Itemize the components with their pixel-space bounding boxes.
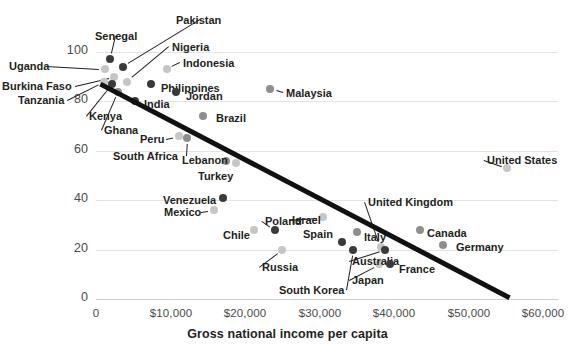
data-point[interactable] [183, 134, 191, 142]
point-label: Jordan [186, 90, 223, 102]
point-label: South Africa [113, 150, 178, 162]
data-point[interactable] [123, 78, 131, 86]
data-point[interactable] [219, 194, 227, 202]
point-label: South Korea [279, 284, 344, 296]
data-point[interactable] [175, 132, 183, 140]
gridline-y-0 [96, 299, 558, 300]
label-leader-line [201, 211, 208, 213]
label-leader-line [276, 90, 283, 93]
x-axis-label: Gross national income per capita [0, 327, 575, 341]
data-point[interactable] [172, 88, 180, 96]
data-point[interactable] [163, 65, 171, 73]
point-label: Canada [427, 227, 467, 239]
point-label: India [144, 98, 170, 110]
data-point[interactable] [381, 246, 389, 254]
point-label: Chile [223, 229, 250, 241]
data-point[interactable] [386, 260, 394, 268]
data-point[interactable] [338, 238, 346, 246]
point-label: Spain [303, 228, 333, 240]
point-label: Senegal [95, 30, 137, 42]
data-point[interactable] [131, 97, 139, 105]
label-leader-line [172, 62, 180, 67]
point-label: Malaysia [286, 87, 332, 99]
data-point[interactable] [271, 226, 279, 234]
y-tick-label: 20 [48, 241, 88, 255]
point-label: Indonesia [183, 57, 234, 69]
data-point[interactable] [250, 226, 258, 234]
point-label: Lebanon [182, 154, 228, 166]
data-point[interactable] [199, 112, 207, 120]
data-point[interactable] [147, 80, 155, 88]
data-point[interactable] [101, 65, 109, 73]
gridline-y-100 [96, 52, 558, 53]
label-leader-line [166, 137, 173, 140]
point-label: Brazil [216, 112, 246, 124]
data-point[interactable] [114, 88, 122, 96]
data-point[interactable] [108, 80, 116, 88]
x-tick-label: $60,000 [498, 307, 575, 319]
data-point[interactable] [106, 55, 114, 63]
point-label: Peru [140, 133, 164, 145]
data-point[interactable] [266, 85, 274, 93]
data-point[interactable] [232, 159, 240, 167]
point-label: France [399, 263, 435, 275]
point-label: Turkey [198, 170, 233, 182]
data-point[interactable] [278, 246, 286, 254]
plot-area: 0204060801000$10,000$20,000$30,000$40,00… [0, 0, 575, 349]
point-label: Venezuela [163, 194, 216, 206]
point-label: Tanzania [18, 94, 64, 106]
point-label: Burkina Faso [2, 80, 72, 92]
y-tick-label: 100 [48, 43, 88, 57]
point-label: United Kingdom [368, 196, 453, 208]
y-tick-label: 40 [48, 191, 88, 205]
data-point[interactable] [439, 241, 447, 249]
data-point[interactable] [349, 246, 357, 254]
point-label: Russia [262, 261, 298, 273]
data-point[interactable] [210, 206, 218, 214]
y-tick-label: 0 [48, 290, 88, 304]
label-leader-line [46, 66, 99, 70]
data-point[interactable] [100, 78, 108, 86]
y-tick-label: 60 [48, 142, 88, 156]
data-point[interactable] [353, 228, 361, 236]
label-leader-line [131, 46, 169, 78]
data-point[interactable] [416, 226, 424, 234]
point-label: Uganda [9, 60, 49, 72]
point-label: Mexico [164, 206, 201, 218]
point-label: Nigeria [172, 41, 209, 53]
data-point[interactable] [119, 63, 127, 71]
point-label: Germany [456, 241, 504, 253]
scatter-chart: 0204060801000$10,000$20,000$30,000$40,00… [0, 0, 575, 349]
point-label: Ghana [104, 124, 138, 136]
